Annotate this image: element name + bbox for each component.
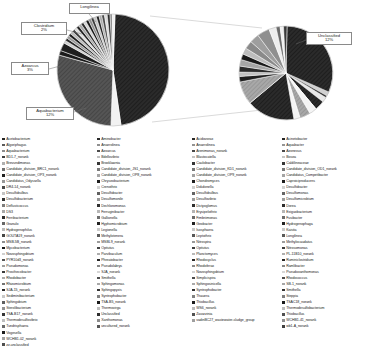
legend-swatch-icon bbox=[282, 180, 285, 183]
legend-swatch-icon bbox=[192, 174, 195, 177]
legend-swatch-icon bbox=[282, 222, 285, 225]
callout-longilinea: Longilinea bbox=[69, 3, 110, 14]
legend-swatch-icon bbox=[2, 277, 5, 280]
callout-aquabacterium-percent: 12% bbox=[29, 113, 71, 117]
legend-swatch-icon bbox=[282, 277, 285, 280]
legend-swatch-icon bbox=[282, 192, 285, 195]
legend-swatch-icon bbox=[192, 265, 195, 268]
legend-item: uncultured_norank bbox=[97, 323, 192, 329]
legend-swatch-icon bbox=[192, 295, 195, 298]
legend-swatch-icon bbox=[192, 204, 195, 207]
legend-swatch-icon bbox=[2, 228, 5, 231]
legend-swatch-icon bbox=[2, 331, 5, 334]
legend-swatch-icon bbox=[192, 144, 195, 147]
legend-swatch-icon bbox=[2, 295, 5, 298]
legend-swatch-icon bbox=[282, 289, 285, 292]
legend-swatch-icon bbox=[282, 253, 285, 256]
legend-swatch-icon bbox=[2, 247, 5, 250]
legend-swatch-icon bbox=[97, 174, 100, 177]
legend-swatch-icon bbox=[97, 301, 100, 304]
callout-clostridium-percent: 2% bbox=[24, 28, 64, 32]
legend-swatch-icon bbox=[282, 265, 285, 268]
legend-swatch-icon bbox=[2, 210, 5, 213]
legend-item: vadinBC27_wastewater-sludge_group bbox=[192, 317, 282, 323]
legend-swatch-icon bbox=[2, 343, 5, 346]
legend-swatch-icon bbox=[97, 307, 100, 310]
legend-swatch-icon bbox=[282, 204, 285, 207]
legend-item-label: uncultured_norank bbox=[101, 323, 130, 329]
legend-swatch-icon bbox=[2, 168, 5, 171]
legend-swatch-icon bbox=[97, 204, 100, 207]
callout-clostridium: Clostridium 2% bbox=[21, 22, 67, 35]
legend-swatch-icon bbox=[282, 307, 285, 310]
legend-swatch-icon bbox=[192, 186, 195, 189]
legend-swatch-icon bbox=[97, 222, 100, 225]
legend-item: wb1-A_norank bbox=[282, 323, 370, 329]
legend-swatch-icon bbox=[2, 222, 5, 225]
legend-swatch-icon bbox=[192, 216, 195, 219]
legend-swatch-icon bbox=[282, 271, 285, 274]
chart-legend: AcetobacteriumAlgoriphagusAquabacteriumB… bbox=[0, 134, 371, 311]
legend-swatch-icon bbox=[192, 319, 195, 322]
legend-swatch-icon bbox=[97, 325, 100, 328]
legend-swatch-icon bbox=[192, 259, 195, 262]
legend-swatch-icon bbox=[192, 156, 195, 159]
legend-swatch-icon bbox=[192, 307, 195, 310]
legend-swatch-icon bbox=[192, 277, 195, 280]
legend-swatch-icon bbox=[97, 265, 100, 268]
callout-azoarcus-percent: 3% bbox=[14, 68, 46, 72]
legend-swatch-icon bbox=[282, 162, 285, 165]
legend-swatch-icon bbox=[192, 234, 195, 237]
legend-swatch-icon bbox=[2, 271, 5, 274]
legend-swatch-icon bbox=[97, 156, 100, 159]
legend-swatch-icon bbox=[97, 228, 100, 231]
legend-swatch-icon bbox=[97, 234, 100, 237]
legend-swatch-icon bbox=[282, 241, 285, 244]
legend-swatch-icon bbox=[97, 192, 100, 195]
legend-item: zz-unclassified bbox=[2, 342, 97, 348]
legend-swatch-icon bbox=[282, 228, 285, 231]
legend-swatch-icon bbox=[192, 210, 195, 213]
legend-swatch-icon bbox=[282, 186, 285, 189]
legend-swatch-icon bbox=[97, 253, 100, 256]
legend-swatch-icon bbox=[2, 301, 5, 304]
legend-swatch-icon bbox=[2, 241, 5, 244]
legend-swatch-icon bbox=[282, 210, 285, 213]
legend-swatch-icon bbox=[97, 162, 100, 165]
legend-swatch-icon bbox=[282, 313, 285, 316]
legend-swatch-icon bbox=[192, 301, 195, 304]
callout-unclassified: Unclassified 12% bbox=[306, 32, 352, 45]
legend-swatch-icon bbox=[192, 253, 195, 256]
legend-swatch-icon bbox=[192, 271, 195, 274]
legend-swatch-icon bbox=[2, 259, 5, 262]
legend-swatch-icon bbox=[97, 168, 100, 171]
legend-swatch-icon bbox=[192, 283, 195, 286]
legend-swatch-icon bbox=[192, 192, 195, 195]
legend-column-2: AcidovoraxAnaerolineaArenimonas_norankBl… bbox=[192, 136, 282, 311]
legend-swatch-icon bbox=[282, 325, 285, 328]
legend-swatch-icon bbox=[192, 168, 195, 171]
legend-swatch-icon bbox=[192, 180, 195, 183]
callout-longilinea-name: Longilinea bbox=[72, 5, 107, 9]
legend-swatch-icon bbox=[282, 144, 285, 147]
legend-swatch-icon bbox=[2, 337, 5, 340]
legend-swatch-icon bbox=[97, 283, 100, 286]
legend-swatch-icon bbox=[192, 241, 195, 244]
callout-unclassified-percent: 12% bbox=[309, 38, 349, 42]
legend-swatch-icon bbox=[2, 144, 5, 147]
legend-swatch-icon bbox=[282, 156, 285, 159]
legend-swatch-icon bbox=[282, 150, 285, 153]
legend-swatch-icon bbox=[97, 289, 100, 292]
pie-of-pie-chart: Longilinea Clostridium 2% Azoarcus 3% Aq… bbox=[0, 0, 371, 134]
legend-swatch-icon bbox=[2, 234, 5, 237]
legend-swatch-icon bbox=[2, 150, 5, 153]
callout-azoarcus: Azoarcus 3% bbox=[11, 62, 49, 75]
legend-swatch-icon bbox=[2, 192, 5, 195]
legend-swatch-icon bbox=[97, 319, 100, 322]
legend-swatch-icon bbox=[2, 162, 5, 165]
legend-item-label: vadinBC27_wastewater-sludge_group bbox=[196, 317, 254, 323]
legend-swatch-icon bbox=[282, 301, 285, 304]
legend-swatch-icon bbox=[97, 144, 100, 147]
legend-column-3: AcinetobacterAquabacterAzonexusBoseaCald… bbox=[282, 136, 370, 311]
legend-swatch-icon bbox=[2, 198, 5, 201]
